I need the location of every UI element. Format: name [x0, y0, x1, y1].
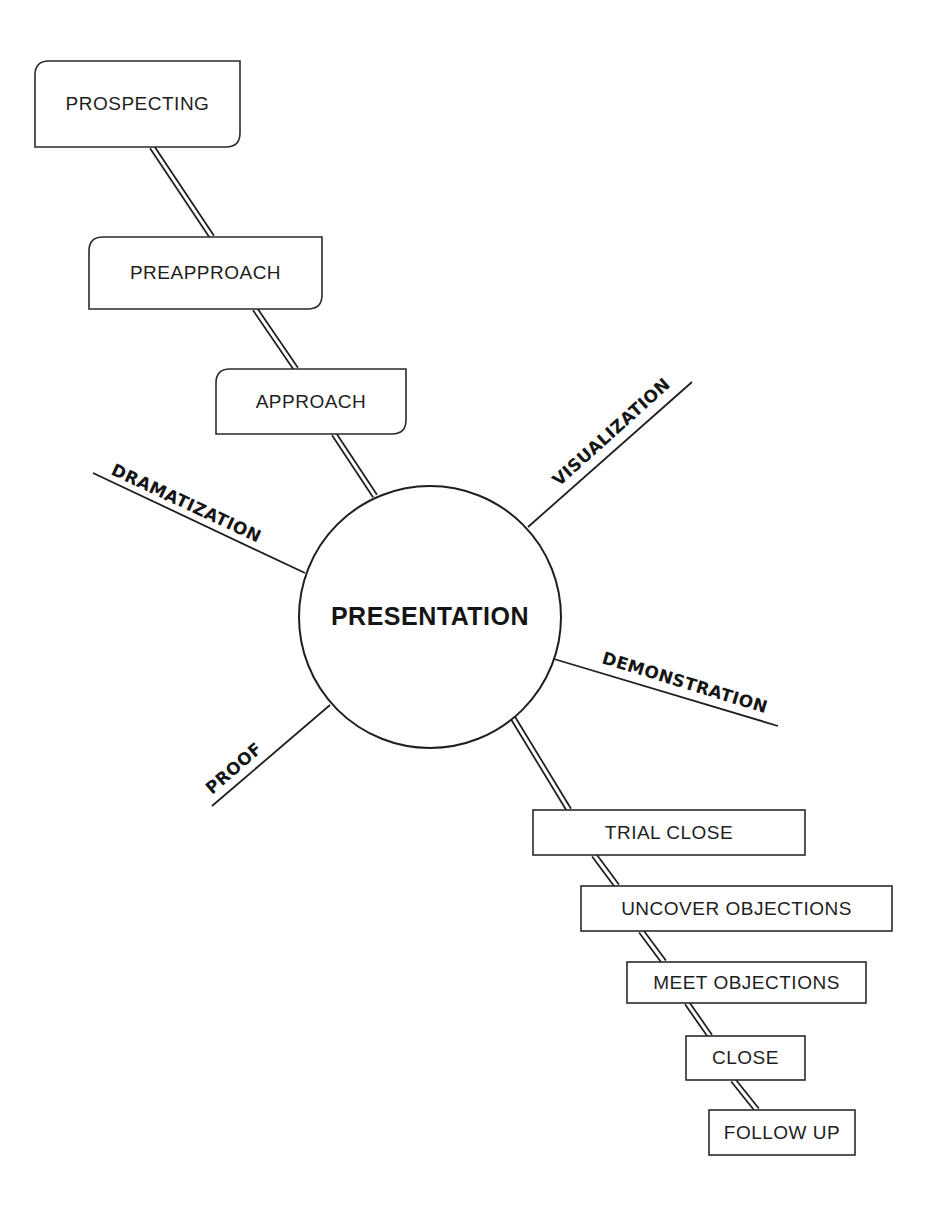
center-node: PRESENTATION [299, 486, 561, 748]
connector-presentation-to-trial-close [513, 718, 569, 810]
step-label-prospecting: PROSPECTING [66, 93, 210, 114]
step-close: CLOSE [686, 1036, 805, 1080]
spoke-line [528, 382, 692, 527]
spoke-line [93, 473, 305, 573]
spoke-visualization: VISUALIZATION [528, 374, 692, 527]
connector-trial-close-to-uncover-objections [594, 855, 617, 886]
spoke-demonstration: DEMONSTRATION [554, 648, 778, 726]
connector-close-to-follow-up [733, 1080, 757, 1110]
spoke-proof: PROOF [202, 705, 330, 806]
step-approach: APPROACH [216, 369, 406, 434]
pre-presentation-steps: PROSPECTINGPREAPPROACHAPPROACH [35, 61, 406, 434]
step-label-uncover-objections: UNCOVER OBJECTIONS [621, 898, 852, 919]
step-label-meet-objections: MEET OBJECTIONS [653, 972, 840, 993]
post-presentation-steps: TRIAL CLOSEUNCOVER OBJECTIONSMEET OBJECT… [533, 810, 892, 1155]
presentation-label: PRESENTATION [331, 602, 529, 630]
spoke-label-demonstration: DEMONSTRATION [600, 648, 770, 717]
step-label-close: CLOSE [712, 1047, 779, 1068]
step-meet-objections: MEET OBJECTIONS [627, 962, 866, 1003]
step-trial-close: TRIAL CLOSE [533, 810, 805, 855]
connector-preapproach-to-approach [255, 309, 296, 369]
connector-meet-objections-to-close [687, 1003, 710, 1036]
step-follow-up: FOLLOW UP [709, 1110, 855, 1155]
step-prospecting: PROSPECTING [35, 61, 240, 147]
step-uncover-objections: UNCOVER OBJECTIONS [581, 886, 892, 931]
spoke-dramatization: DRAMATIZATION [93, 459, 305, 573]
spoke-label-visualization: VISUALIZATION [548, 374, 674, 490]
step-label-approach: APPROACH [256, 391, 367, 412]
sales-process-diagram: VISUALIZATIONDRAMATIZATIONDEMONSTRATIONP… [0, 0, 944, 1213]
step-label-trial-close: TRIAL CLOSE [605, 822, 733, 843]
step-label-follow-up: FOLLOW UP [724, 1122, 840, 1143]
connector-uncover-objections-to-meet-objections [641, 931, 664, 962]
step-label-preapproach: PREAPPROACH [130, 262, 281, 283]
spoke-label-dramatization: DRAMATIZATION [108, 459, 264, 546]
connector-prospecting-to-preapproach [152, 147, 212, 237]
spoke-line [212, 705, 330, 806]
step-preapproach: PREAPPROACH [89, 237, 322, 309]
connector-approach-to-presentation [334, 434, 375, 496]
